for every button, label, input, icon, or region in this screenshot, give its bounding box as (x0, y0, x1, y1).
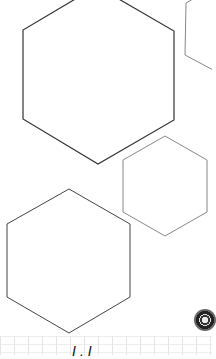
bottom-strip-label: I.I (72, 344, 96, 358)
lower-hexagon[interactable] (7, 189, 130, 333)
partial-hexagon-top-right[interactable] (185, 0, 212, 71)
bottom-grid-ruler (0, 336, 212, 355)
circular-control-button[interactable] (194, 309, 216, 331)
large-hexagon[interactable] (23, 0, 174, 164)
medium-hexagon[interactable] (123, 136, 207, 236)
